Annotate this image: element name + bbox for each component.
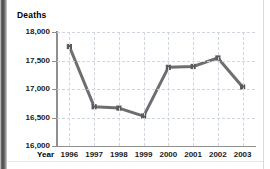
gridline-horizontal	[57, 32, 255, 33]
gridline-horizontal	[57, 61, 255, 62]
y-axis-tick	[52, 118, 57, 119]
y-axis-tick	[52, 146, 57, 147]
y-axis-tick	[52, 89, 57, 90]
x-axis-title: Year	[26, 150, 54, 159]
gridline-vertical	[168, 32, 169, 146]
y-axis-tick-labels: 16,00016,50017,00017,50018,000	[0, 0, 50, 169]
y-axis-tick	[52, 61, 57, 62]
gridline-vertical	[218, 32, 219, 146]
gridline-horizontal	[57, 89, 255, 90]
y-axis-tick-label: 18,000	[26, 27, 50, 36]
gridline-vertical	[144, 32, 145, 146]
x-axis-line	[56, 146, 256, 147]
gridline-vertical	[94, 32, 95, 146]
y-axis-tick	[52, 32, 57, 33]
gridline-vertical	[119, 32, 120, 146]
plot-area	[57, 32, 255, 146]
chart-screenshot: Deaths 16,00016,50017,00017,50018,000 Ye…	[0, 0, 270, 169]
y-axis-tick-label: 16,000	[26, 141, 50, 150]
gridline-vertical	[69, 32, 70, 146]
y-axis-tick-label: 17,000	[26, 84, 50, 93]
x-axis-tick-label: 2003	[229, 150, 257, 159]
right-divider-rule	[263, 0, 264, 169]
y-axis-tick-label: 16,500	[26, 113, 50, 122]
y-axis-tick-label: 17,500	[26, 56, 50, 65]
gridline-horizontal	[57, 118, 255, 119]
gridline-vertical	[193, 32, 194, 146]
gridline-vertical	[243, 32, 244, 146]
